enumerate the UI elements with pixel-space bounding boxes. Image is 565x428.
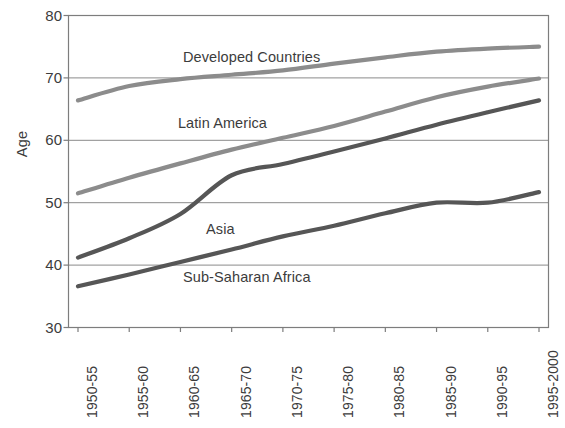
x-tick-label: 1990-95	[494, 365, 510, 417]
x-tick-label: 1975-80	[340, 365, 356, 417]
life-expectancy-line-chart: Age 304050607080 1950-551955-601960-6519…	[0, 0, 565, 428]
series-label: Developed Countries	[183, 49, 320, 65]
series-label: Latin America	[178, 115, 267, 131]
x-tick-label: 1960-65	[186, 365, 202, 417]
x-tick-label: 1985-90	[443, 365, 459, 417]
series-label: Sub-Saharan Africa	[183, 269, 311, 285]
x-tick-label: 1980-85	[391, 365, 407, 417]
x-tick-label: 1965-70	[238, 365, 254, 417]
x-tick-label: 1950-55	[84, 365, 100, 417]
x-tick-label: 1955-60	[135, 365, 151, 417]
series-label: Asia	[206, 221, 235, 237]
x-tick-label: 1970-75	[289, 365, 305, 417]
x-tick-label: 1995-2000	[545, 350, 561, 418]
